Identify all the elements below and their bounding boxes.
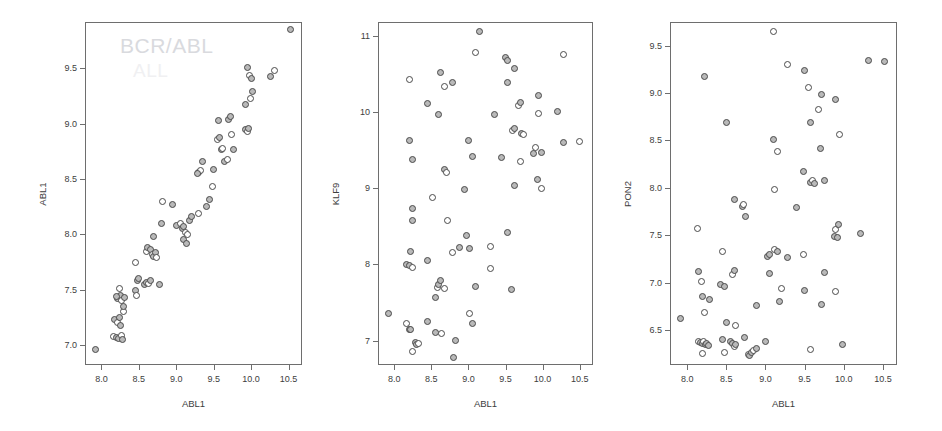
data-point [800, 251, 807, 258]
y-axis-tick-label: 10 [348, 107, 370, 117]
data-point [247, 95, 254, 102]
data-point [158, 220, 165, 227]
data-point [511, 65, 518, 72]
plot-area-2 [378, 22, 593, 365]
data-point [487, 265, 494, 272]
data-point [184, 231, 191, 238]
x-axis-tick [805, 365, 806, 370]
y-axis-tick [665, 46, 670, 47]
y-axis-tick-label: 9 [348, 183, 370, 193]
data-point [210, 166, 217, 173]
data-point [465, 137, 472, 144]
x-axis-tick-label: 8.0 [95, 374, 108, 384]
data-point [119, 336, 126, 343]
y-axis-tick-label: 9.0 [55, 119, 77, 129]
x-axis-tick [543, 365, 544, 370]
data-point [120, 303, 127, 310]
data-point [156, 281, 163, 288]
y-axis-tick [665, 330, 670, 331]
data-point [415, 340, 422, 347]
data-point [147, 277, 154, 284]
data-point [719, 248, 726, 255]
data-point [721, 349, 728, 356]
y-axis-tick-label: 7.0 [55, 340, 77, 350]
y-axis-tick-label: 9.0 [640, 88, 662, 98]
data-point [444, 217, 451, 224]
data-point [199, 158, 206, 165]
data-point [719, 336, 726, 343]
data-point [224, 156, 231, 163]
x-axis-tick [139, 365, 140, 370]
data-point [770, 28, 777, 35]
data-point [774, 148, 781, 155]
data-point [188, 213, 195, 220]
data-point [532, 144, 539, 151]
x-axis-tick-label: 10.5 [280, 374, 298, 384]
data-point [701, 73, 708, 80]
data-point [835, 221, 842, 228]
data-point [821, 269, 828, 276]
x-axis-tick-label: 10.0 [534, 374, 552, 384]
data-point [706, 296, 713, 303]
data-point [508, 286, 515, 293]
y-axis-title: KLF9 [330, 182, 341, 205]
y-axis-tick [80, 345, 85, 346]
data-point [407, 248, 414, 255]
y-axis-tick [373, 188, 378, 189]
x-axis-tick-label: 9.0 [462, 374, 475, 384]
y-axis-tick [373, 341, 378, 342]
data-point [723, 119, 730, 126]
y-axis-tick [373, 112, 378, 113]
data-point [520, 131, 527, 138]
x-axis-tick [687, 365, 688, 370]
data-point [723, 319, 730, 326]
y-axis-tick [80, 68, 85, 69]
data-point [778, 285, 785, 292]
data-point [554, 108, 561, 115]
y-axis-tick [80, 234, 85, 235]
data-point [227, 113, 234, 120]
data-point [801, 287, 808, 294]
y-axis-tick-label: 7.5 [55, 285, 77, 295]
data-point [450, 354, 457, 361]
data-point [800, 168, 807, 175]
y-axis-tick-label: 8.0 [640, 183, 662, 193]
x-axis-tick-label: 10.5 [571, 374, 589, 384]
data-point [766, 270, 773, 277]
data-point [731, 196, 738, 203]
data-point [183, 240, 190, 247]
data-point [407, 326, 414, 333]
data-point [504, 229, 511, 236]
y-axis-tick [665, 235, 670, 236]
x-axis-tick-label: 8.5 [720, 374, 733, 384]
data-point [438, 330, 445, 337]
y-axis-tick [665, 188, 670, 189]
data-point [215, 117, 222, 124]
y-axis-tick [373, 36, 378, 37]
x-axis-title: ABL1 [474, 398, 497, 409]
x-axis-tick [580, 365, 581, 370]
y-axis-tick-label: 7.5 [640, 230, 662, 240]
x-axis-tick-label: 10.5 [874, 374, 892, 384]
x-axis-tick-label: 10.0 [242, 374, 260, 384]
data-point [219, 145, 226, 152]
x-axis-tick [214, 365, 215, 370]
data-point [774, 248, 781, 255]
x-axis-tick-label: 9.5 [207, 374, 220, 384]
y-axis-tick-label: 7.0 [640, 278, 662, 288]
x-axis-tick [726, 365, 727, 370]
data-point [753, 345, 760, 352]
x-axis-title: ABL1 [772, 398, 795, 409]
y-axis-tick [80, 124, 85, 125]
data-point [741, 334, 748, 341]
y-axis-tick-label: 8.0 [55, 229, 77, 239]
data-point [815, 106, 822, 113]
x-axis-tick-label: 8.5 [133, 374, 146, 384]
data-point [517, 158, 524, 165]
y-axis-tick [665, 283, 670, 284]
x-axis-tick-label: 9.0 [170, 374, 183, 384]
y-axis-title: PON2 [622, 181, 633, 207]
y-axis-title: ABL1 [37, 182, 48, 205]
data-point [811, 180, 818, 187]
data-point [698, 278, 705, 285]
